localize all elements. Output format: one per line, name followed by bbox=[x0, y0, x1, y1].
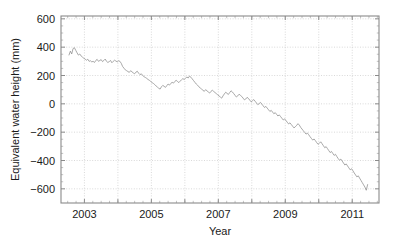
series-line-equivalent-water-height bbox=[69, 48, 368, 191]
y-tick-label: 200 bbox=[37, 70, 55, 82]
x-tick-label: 2009 bbox=[273, 208, 297, 220]
y-tick-label: −400 bbox=[30, 155, 55, 167]
y-axis-tick-labels: 6004002000−200−400−600 bbox=[30, 13, 55, 195]
y-tick-label: 0 bbox=[49, 98, 55, 110]
gridlines bbox=[61, 16, 379, 203]
y-tick-label: 600 bbox=[37, 13, 55, 25]
x-axis-tick-labels: 20032005200720092011 bbox=[72, 208, 364, 220]
plot-frame bbox=[61, 16, 379, 203]
x-axis-title: Year bbox=[209, 225, 232, 237]
y-tick-label: −600 bbox=[30, 183, 55, 195]
x-tick-label: 2011 bbox=[340, 208, 364, 220]
data-series-group bbox=[69, 48, 368, 191]
x-tick-label: 2003 bbox=[72, 208, 96, 220]
axis-tickmarks bbox=[61, 16, 379, 203]
y-axis-title: Equivalent water height (mm) bbox=[9, 38, 21, 181]
chart-container: 20032005200720092011 6004002000−200−400−… bbox=[0, 0, 395, 249]
x-tick-label: 2005 bbox=[139, 208, 163, 220]
y-tick-label: −200 bbox=[30, 126, 55, 138]
x-tick-label: 2007 bbox=[206, 208, 230, 220]
y-tick-label: 400 bbox=[37, 41, 55, 53]
equivalent-water-height-line-chart: 20032005200720092011 6004002000−200−400−… bbox=[0, 0, 395, 249]
